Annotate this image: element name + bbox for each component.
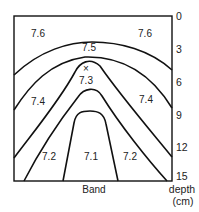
axis-tick-label: 0 (176, 10, 182, 22)
region-label: 7.1 (84, 151, 98, 162)
region-label: 7.2 (123, 151, 137, 162)
axis-title-unit: (cm) (173, 195, 194, 207)
contour-diagram: 7.6 7.6 7.5 × 7.3 7.4 7.4 7.2 7.1 7.2 Ba… (0, 0, 199, 212)
axis-title: depth (169, 183, 195, 195)
region-label: 7.6 (31, 28, 45, 39)
region-label: 7.3 (79, 75, 93, 86)
marker-x: × (83, 63, 89, 74)
band-label: Band (82, 184, 105, 195)
contour-line-7.35 (14, 61, 172, 158)
axis-tick-label: 3 (176, 43, 182, 55)
region-label: 7.5 (82, 42, 96, 53)
axis-tick-label: 6 (176, 76, 182, 88)
region-label: 7.6 (138, 28, 152, 39)
region-label: 7.2 (42, 151, 56, 162)
region-label: 7.4 (31, 96, 45, 107)
region-label: 7.4 (139, 94, 153, 105)
axis-tick-label: 12 (176, 141, 188, 153)
axis-tick-label: 9 (176, 109, 182, 121)
contour-line-7.15 (63, 111, 118, 181)
axis-tick-label: 15 (176, 170, 188, 182)
